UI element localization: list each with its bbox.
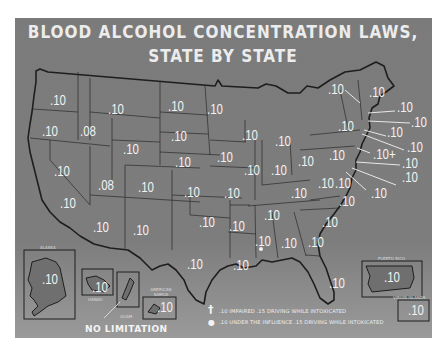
state-value-okla: .10 — [199, 215, 215, 229]
guam-no-limitation-note: NO LIMITATION — [85, 324, 168, 334]
inset-value-puerto-rico: .10 — [384, 270, 400, 284]
state-value-pa: .10 — [329, 148, 345, 162]
state-value-vt: .10 — [328, 82, 344, 96]
state-value-wva: .10 — [318, 176, 334, 190]
state-value-ndak: .10 — [168, 99, 184, 113]
state-value-oreg: .10 — [42, 124, 58, 138]
inset-value-american-samoa: .10 — [157, 300, 173, 314]
state-value-ga: .10 — [308, 235, 324, 249]
state-value-conn: .10 — [407, 140, 423, 154]
inset-label-alaska: ALASKA — [40, 245, 56, 250]
state-value-miss: .10 — [255, 234, 271, 248]
state-value-ind: .10 — [271, 163, 287, 177]
state-value-minn: .10 — [207, 102, 223, 116]
state-value-la: .10 — [233, 258, 249, 272]
legend-item-under-influence: .10 UNDER THE INFLUENCE .15 DRIVING WHIL… — [219, 319, 384, 325]
state-value-sdak: .10 — [171, 129, 187, 143]
state-value-mich: .10 — [275, 134, 291, 148]
inset-value-virgin-islands: .10 — [408, 303, 424, 317]
state-value-sc: .10 — [322, 215, 338, 229]
state-value-utah: .08 — [98, 178, 114, 192]
state-value-md: .10 — [402, 170, 418, 184]
dot-icon: ● — [208, 318, 215, 327]
state-value-kans: .10 — [184, 185, 200, 199]
state-value-ark: .10 — [229, 219, 245, 233]
state-value-ohio: .10 — [298, 154, 314, 168]
state-value-ri: .10 — [387, 125, 403, 139]
state-value-ariz: .10 — [93, 220, 109, 234]
state-value-wisc: .10 — [242, 128, 258, 142]
state-value-mont: .10 — [108, 102, 124, 116]
inset-label-guam: GUAM — [120, 314, 132, 319]
state-value-nj: .10+ — [373, 147, 396, 161]
state-value-fla: .10 — [329, 276, 345, 290]
state-value-del: .10 — [402, 156, 418, 170]
inset-label-american-samoa: AMERICAN SAMOA — [146, 287, 176, 297]
inset-label-hawaii: HAWAII — [88, 297, 102, 302]
state-value-ky: .10 — [291, 186, 307, 200]
state-value-mass: .10 — [411, 115, 427, 129]
inset-value-alaska: .10 — [42, 272, 58, 286]
inset-label-puerto-rico: PUERTO RICO — [378, 256, 405, 261]
state-value-nebr: .10 — [175, 155, 191, 169]
state-value-ill: .10 — [244, 163, 260, 177]
state-value-tex: .10 — [187, 257, 203, 271]
legend-item-impaired: .10 IMPAIRED .15 DRIVING WHILE INTOXICAT… — [219, 308, 346, 314]
state-value-dc: .10 — [371, 186, 387, 200]
state-value-mo: .10 — [224, 186, 240, 200]
state-value-nc: .10 — [339, 194, 355, 208]
state-value-colo: .10 — [138, 180, 154, 194]
inset-label-virgin-islands: VIRGIN ISLANDS — [393, 295, 426, 300]
inset-value-hawaii: .10 — [92, 280, 108, 294]
state-value-maine: .10 — [369, 85, 385, 99]
state-value-nh: .10 — [397, 100, 413, 114]
state-value-calif: .10 — [54, 164, 70, 178]
state-value-wash: .10 — [50, 93, 66, 107]
state-value-va: .10 — [335, 176, 351, 190]
state-value-wyo: .10 — [123, 142, 139, 156]
state-value-ny: .10 — [338, 119, 354, 133]
state-value-ala: .10 — [281, 236, 297, 250]
dagger-icon: † — [208, 303, 214, 316]
state-value-idaho: .08 — [80, 124, 96, 138]
state-value-tenn: .10 — [264, 208, 280, 222]
state-value-nmex: .10 — [133, 223, 149, 237]
state-value-nev: .10 — [60, 196, 76, 210]
state-value-iowa: .10 — [217, 150, 233, 164]
